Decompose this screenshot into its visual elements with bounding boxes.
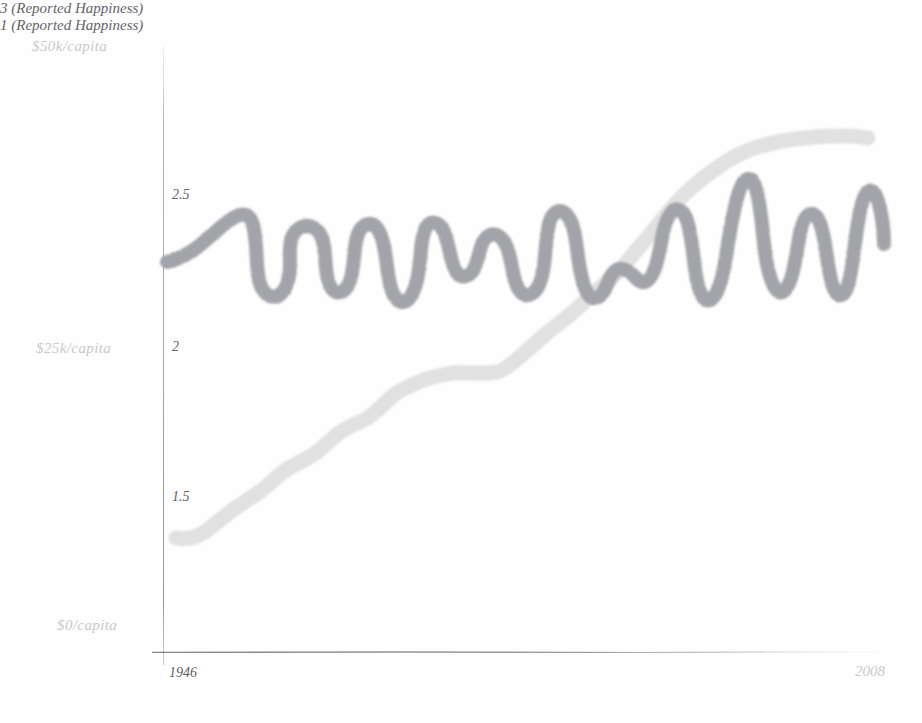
happiness-line bbox=[167, 179, 884, 302]
chart-svg bbox=[0, 0, 922, 723]
ytick-money-0: $0/capita bbox=[57, 617, 117, 634]
series-reported-happiness bbox=[167, 179, 884, 302]
ytick-money-50k: $50k/capita bbox=[32, 38, 107, 55]
xtick-2008: 2008 bbox=[855, 663, 885, 680]
ytick-happiness-2-5: 2.5 bbox=[172, 187, 190, 203]
ytick-money-25k: $25k/capita bbox=[36, 340, 111, 357]
ytick-happiness-2: 2 bbox=[172, 339, 179, 355]
chart-canvas: $50k/capita $25k/capita $0/capita 3 (Rep… bbox=[0, 0, 922, 723]
xtick-1946: 1946 bbox=[169, 665, 197, 681]
ytick-happiness-1-5: 1.5 bbox=[172, 489, 190, 505]
x-axis-line bbox=[152, 652, 880, 653]
